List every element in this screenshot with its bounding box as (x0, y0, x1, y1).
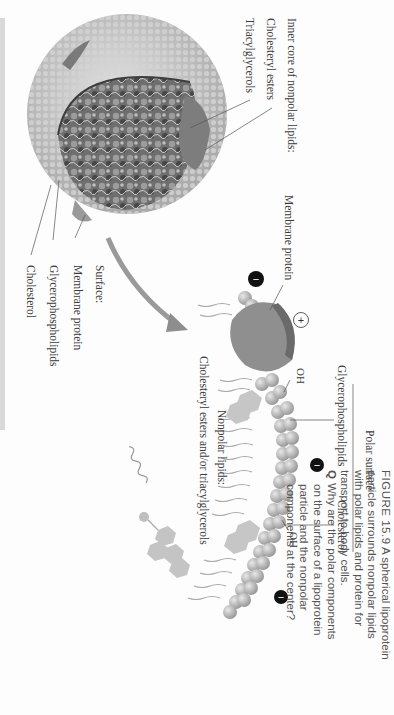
svg-text:+: + (298, 314, 304, 326)
figure-caption: FIGURE 15.9 A spherical lipoprotein part… (283, 470, 392, 710)
question-line: particle and the nonpolar (297, 470, 311, 710)
question-marker: Q (326, 470, 338, 479)
label-membrane-protein-detail: Membrane protein (283, 195, 295, 280)
question-line: Why are the polar components (326, 483, 338, 640)
question-line: on the surface of a lipoprotein (310, 470, 324, 710)
label-glycerophospholipids-sphere: Glycerophospholipids (48, 265, 60, 367)
label-triacylglycerols: Triacylglycerols (244, 18, 256, 93)
label-glycerophospholipids-detail: Glycerophospholipids (336, 365, 348, 467)
label-cholesterol-sphere: Cholesterol (25, 265, 37, 318)
caption-line: A spherical lipoprotein (380, 547, 392, 660)
question-line: components at the center? (283, 470, 297, 710)
label-membrane-protein-sphere: Membrane protein (72, 265, 84, 350)
label-oh-1: OH (295, 368, 307, 384)
label-surface: Surface: (94, 265, 106, 303)
label-cholesteryl-esters: Cholesteryl esters (265, 18, 277, 100)
label-nonpolar-lipids: Nonpolar lipids: (216, 410, 228, 485)
svg-text:−: − (253, 273, 259, 285)
label-inner-core: Inner core of nonpolar lipids: (286, 18, 298, 153)
caption-line: transport to body cells. (338, 470, 352, 710)
caption-line: particle surrounds nonpolar lipids (365, 470, 379, 710)
figure-number: FIGURE 15.9 (380, 470, 392, 545)
label-nonpolar-items: Cholesteryl esters and/or triacylglycero… (198, 356, 210, 545)
caption-line: with polar lipids and protein for (351, 470, 365, 710)
